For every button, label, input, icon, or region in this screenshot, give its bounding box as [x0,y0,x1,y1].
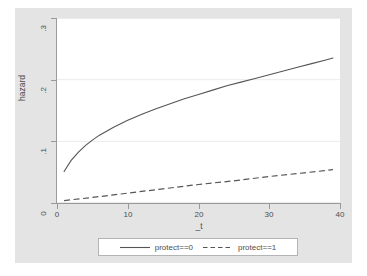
y-tick-mark-1 [51,141,56,142]
stata-graph: .3 .2 .1 0 0 10 20 30 40 hazard _t prote… [0,0,367,276]
y-tick-mark-3 [51,18,56,19]
legend-label-protect-0: protect==0 [155,243,193,252]
x-tick-label-20: 20 [187,210,211,219]
y-tick-label-1: .1 [39,142,48,162]
y-tick-label-2: .2 [39,81,48,101]
plot-canvas [57,18,340,203]
y-axis-line [56,18,57,204]
y-tick-mark-0 [51,203,56,204]
x-axis-title: _t [57,221,341,231]
y-tick-mark-2 [51,80,56,81]
y-axis-title: hazard [17,66,27,110]
legend-label-protect-1: protect==1 [238,243,276,252]
y-tick-label-3: .3 [39,19,48,39]
gridlines [57,19,340,203]
x-tick-mark-10 [128,204,129,209]
x-tick-mark-20 [199,204,200,209]
legend-key-solid-line-icon [120,244,150,251]
x-tick-mark-30 [269,204,270,209]
series-protect-1 [64,170,333,201]
x-tick-mark-0 [57,204,58,209]
x-tick-label-40: 40 [328,210,352,219]
legend-entry-protect-1: protect==1 [203,243,276,252]
x-tick-label-30: 30 [257,210,281,219]
x-tick-mark-40 [340,204,341,209]
plot-area [57,18,340,203]
legend: protect==0 protect==1 [98,238,298,256]
x-tick-label-10: 10 [116,210,140,219]
series-protect-0 [64,58,333,171]
legend-entry-protect-0: protect==0 [120,243,193,252]
legend-key-dashed-line-icon [203,244,233,251]
x-tick-label-0: 0 [45,210,69,219]
